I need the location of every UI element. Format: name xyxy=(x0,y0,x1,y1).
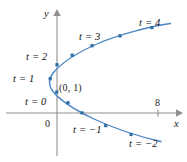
data-point-tm1.5 xyxy=(104,124,107,127)
data-point-tm0.5 xyxy=(66,101,69,104)
data-point-t3 xyxy=(90,44,93,47)
data-point-tm2 xyxy=(129,133,132,136)
parametric-curve-figure: y x 0 8 t = 4 t = 3 t = 2 t = 1 t = 0 t … xyxy=(0,0,187,162)
data-point-t0 xyxy=(55,90,58,93)
data-point-t2 xyxy=(55,63,58,66)
data-point-t1 xyxy=(49,77,52,80)
point-label-tm2: t = −2 xyxy=(129,139,158,150)
origin-label: 0 xyxy=(45,119,50,129)
data-point-tm1 xyxy=(80,111,83,114)
x-axis-label: x xyxy=(174,119,179,130)
y-axis-label: y xyxy=(44,9,49,20)
point-label-t1: t = 1 xyxy=(13,74,35,85)
x-axis-arrowhead xyxy=(176,109,183,117)
point-annotation-origin-one: (0, 1) xyxy=(59,83,82,93)
data-point-t2.5 xyxy=(71,54,74,57)
y-axis-arrowhead xyxy=(53,9,60,16)
point-label-t2: t = 2 xyxy=(26,52,48,63)
point-label-tm1: t = −1 xyxy=(73,125,102,136)
point-label-t3: t = 3 xyxy=(79,32,101,43)
point-label-t0: t = 0 xyxy=(25,97,47,108)
point-label-t4: t = 4 xyxy=(139,18,161,29)
data-point-t3.5 xyxy=(118,34,121,37)
x-tick-label-8: 8 xyxy=(155,98,160,108)
